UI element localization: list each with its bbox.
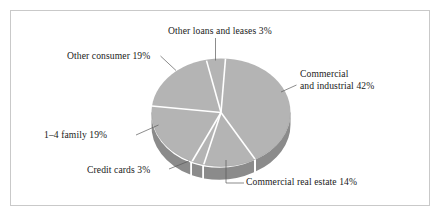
- label-credit-cards: Credit cards 3%: [87, 164, 150, 176]
- label-commercial-and-industrial-line1: Commercial: [300, 68, 374, 80]
- label-commercial-and-industrial: Commercial and industrial 42%: [300, 68, 374, 91]
- label-other-consumer: Other consumer 19%: [67, 50, 150, 62]
- label-other-loans-and-leases: Other loans and leases 3%: [168, 25, 272, 37]
- label-1-4-family: 1–4 family 19%: [44, 129, 107, 141]
- label-commercial-and-industrial-line2: and industrial 42%: [300, 80, 374, 92]
- label-commercial-real-estate: Commercial real estate 14%: [246, 176, 357, 188]
- pie-top-group: [152, 59, 291, 167]
- leader-commercial-industrial: [281, 85, 297, 92]
- leader-other-consumer: [161, 56, 177, 71]
- pie-side-credit-cards: [192, 163, 202, 178]
- pie-chart-figure: Other loans and leases 3% Other consumer…: [0, 0, 441, 219]
